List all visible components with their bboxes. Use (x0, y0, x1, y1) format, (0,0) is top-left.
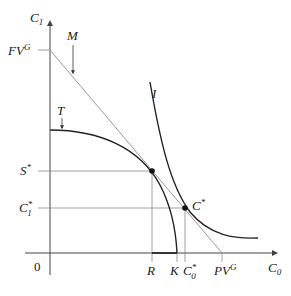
s-star-label: S* (20, 162, 32, 178)
y-axis-label: C1 (30, 10, 43, 27)
r-label: R (146, 263, 155, 278)
market-line (50, 50, 222, 253)
origin-label: 0 (34, 259, 41, 274)
intertemporal-choice-diagram: C1 C0 0 FVG S* C*1 R K C*0 PVG M T I C* (0, 0, 291, 296)
c1-star-label: C*1 (19, 199, 33, 218)
pv-label: PVG (213, 262, 237, 278)
k-label: K (169, 263, 180, 278)
c0-star-label: C*0 (183, 262, 197, 281)
fv-label: FVG (7, 42, 31, 58)
indifference-curve (150, 82, 258, 238)
indifference-curve-label: I (151, 86, 157, 101)
x-axis-label: C0 (268, 260, 282, 277)
production-point (149, 168, 155, 174)
optimum-label: C* (192, 197, 206, 213)
market-line-label: M (66, 28, 79, 43)
transformation-curve-label: T (57, 103, 65, 118)
transformation-curve (50, 130, 177, 253)
optimum-point (182, 205, 188, 211)
